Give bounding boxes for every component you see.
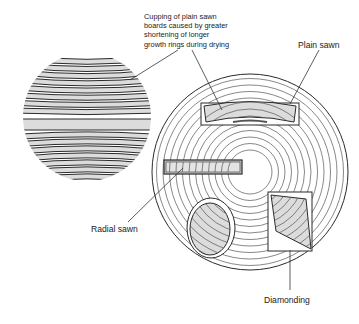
cupping-caption: Cupping of plain sawn boards caused by g… <box>144 12 230 49</box>
timber-shrinkage-diagram: Cupping of plain sawn boards caused by g… <box>0 0 359 324</box>
diamonding-label: Diamonding <box>264 295 310 305</box>
plain-sawn-label: Plain sawn <box>298 40 340 50</box>
sliced-log <box>21 55 153 183</box>
radial-sawn-label: Radial sawn <box>91 224 138 234</box>
